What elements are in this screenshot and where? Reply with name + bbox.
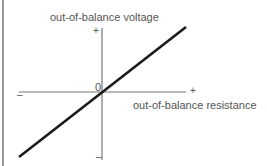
y-axis-label: out-of-balance voltage: [50, 12, 159, 23]
x-minus-sign: –: [17, 90, 23, 100]
graph: [0, 0, 267, 166]
origin-label: 0: [95, 82, 101, 93]
y-plus-sign: +: [93, 26, 99, 36]
x-axis-label: out-of-balance resistance: [133, 100, 257, 111]
y-minus-sign: –: [96, 152, 102, 162]
x-plus-sign: +: [190, 86, 196, 96]
